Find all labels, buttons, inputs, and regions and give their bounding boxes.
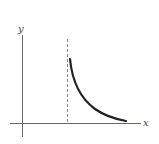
graph: y x <box>0 0 159 144</box>
x-axis-label: x <box>143 117 149 128</box>
decreasing-curve <box>70 59 126 121</box>
y-axis-label: y <box>17 23 24 34</box>
